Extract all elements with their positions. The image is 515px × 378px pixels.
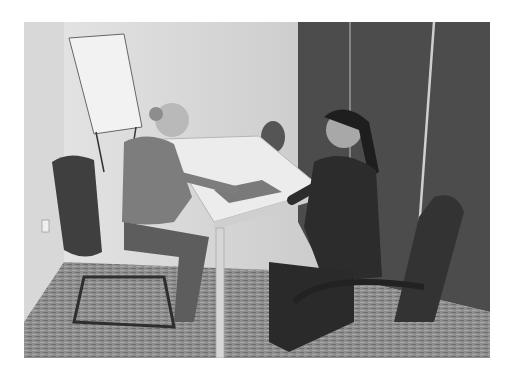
table-leg — [216, 228, 224, 358]
scene-illustration — [24, 22, 490, 358]
photograph — [24, 22, 490, 358]
person-left-head — [155, 103, 189, 137]
wall-socket — [42, 220, 49, 232]
